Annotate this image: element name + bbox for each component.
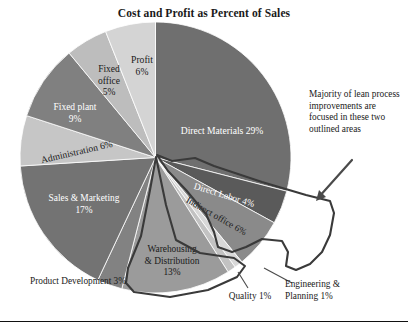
pie-label-product-development: Product Development 3% bbox=[22, 276, 134, 288]
pie-label-direct-materials: Direct Materials 29% bbox=[181, 125, 264, 136]
pie-label-engineering-planning: Engineering & Planning 1% bbox=[285, 279, 371, 302]
footer-divider bbox=[0, 321, 408, 322]
pie-chart-figure: Cost and Profit as Percent of Sales Dire… bbox=[0, 0, 408, 335]
pie-label-quality: Quality 1% bbox=[222, 291, 278, 303]
leader-line-quality bbox=[238, 272, 248, 288]
annotation-arrow-icon bbox=[316, 160, 352, 201]
annotation-note: Majority of lean process improvements ar… bbox=[309, 89, 404, 135]
